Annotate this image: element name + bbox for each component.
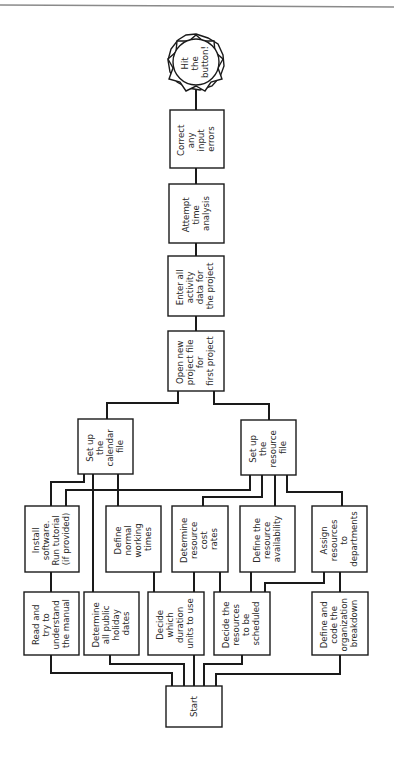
hit-the-button-node: Hit the button!	[168, 34, 224, 91]
svg-text:Read and try to un: Read and try to understand the manual	[31, 598, 71, 650]
correct-errors-node: Correct any input errors	[170, 110, 224, 168]
start-node: Start	[166, 686, 222, 727]
organization-breakdown-node: Define and code the organization breakdo…	[312, 592, 368, 655]
top-rule	[0, 5, 394, 7]
svg-text:Define and code the: Define and code the organization breakdo…	[319, 595, 359, 651]
attempt-time-analysis-node: Attempt time analysis	[169, 184, 224, 243]
define-availability-node: Define the resource availability	[240, 506, 295, 572]
read-manual-node: Read and try to understand the manual	[24, 592, 79, 655]
resources-scheduled-node: Decide the resources to be scheduled	[214, 592, 270, 655]
define-working-times-node: Define normal working times	[106, 506, 161, 572]
flowchart-diagram: Hit the button! Correct any input errors…	[0, 0, 394, 765]
install-software-node: Install software. Run tutorial (if provi…	[25, 506, 79, 572]
open-project-file-node: Open new project file for first project	[168, 331, 224, 391]
holiday-dates-node: Determine all public holiday dates	[84, 592, 139, 655]
assign-resources-node: Assign resources to departments	[312, 506, 367, 572]
svg-text:Correct any input: Correct any input errors	[176, 122, 216, 156]
svg-text:Define the resource: Define the resource availability	[252, 515, 282, 563]
set-up-resource-node: Set up the resource file	[241, 420, 296, 475]
determine-cost-rates-node: Determine resource cost rates	[172, 506, 228, 572]
duration-units-node: Decide which duration units to use	[148, 592, 204, 655]
svg-text:Start: Start	[189, 695, 199, 717]
enter-activity-data-node: Enter all activity data for the project	[168, 256, 224, 316]
svg-text:Enter all activity: Enter all activity data for the project	[175, 262, 215, 309]
set-up-calendar-node: Set up the calendar file	[78, 419, 133, 474]
